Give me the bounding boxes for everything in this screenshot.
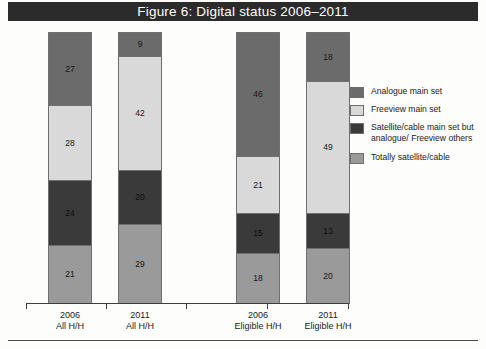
legend-item-satellite-cable-main-set[interactable]: Satellite/cable main set but analogue/ F…: [350, 122, 482, 143]
segment-value-label: 9: [138, 40, 143, 49]
segment-analogue-main-set[interactable]: 46: [237, 33, 279, 157]
segment-value-label: 20: [135, 193, 144, 202]
segment-value-label: 42: [135, 109, 144, 118]
segment-totally-satellite-cable[interactable]: 20: [307, 249, 349, 303]
bar-group-2011-all: 9422029: [118, 32, 162, 304]
stacked-bar[interactable]: 9422029: [118, 32, 162, 304]
legend-swatch-icon: [350, 123, 364, 134]
segment-analogue-main-set[interactable]: 18: [307, 33, 349, 82]
segment-analogue-main-set[interactable]: 9: [119, 33, 161, 57]
segment-value-label: 46: [253, 90, 262, 99]
axis-label-2011-eligible: 2011 Eligible H/H: [280, 310, 376, 332]
axis-label-group: All H/H: [92, 321, 188, 332]
axis-label-2011-all: 2011 All H/H: [92, 310, 188, 332]
bar-group-2006-eligible: 46211518: [236, 32, 280, 304]
segment-totally-satellite-cable[interactable]: 29: [119, 225, 161, 303]
segment-analogue-main-set[interactable]: 27: [49, 33, 91, 106]
segment-satellite-cable-main-set[interactable]: 15: [237, 214, 279, 255]
legend-item-freeview-main-set[interactable]: Freeview main set: [350, 104, 482, 116]
segment-value-label: 21: [65, 270, 74, 279]
x-axis-line: [26, 303, 348, 304]
segment-totally-satellite-cable[interactable]: 21: [49, 246, 91, 303]
axis-tick: [106, 303, 107, 309]
stacked-bar[interactable]: 18491320: [306, 32, 350, 304]
figure-6-digital-status: Figure 6: Digital status 2006–2011 27282…: [0, 0, 486, 349]
figure-title-bar: Figure 6: Digital status 2006–2011: [8, 2, 478, 21]
segment-value-label: 28: [65, 139, 74, 148]
segment-value-label: 49: [323, 143, 332, 152]
segment-value-label: 24: [65, 209, 74, 218]
segment-freeview-main-set[interactable]: 21: [237, 157, 279, 214]
legend-item-label: Satellite/cable main set but analogue/ F…: [371, 122, 482, 143]
segment-freeview-main-set[interactable]: 42: [119, 57, 161, 170]
page-title: Figure 6: Digital status 2006–2011: [137, 4, 348, 19]
legend-item-label: Analogue main set: [371, 86, 442, 97]
stacked-bar[interactable]: 27282421: [48, 32, 92, 304]
bottom-divider: [8, 340, 478, 341]
segment-value-label: 27: [65, 65, 74, 74]
axis-label-year: 2011: [92, 310, 188, 321]
segment-value-label: 21: [253, 181, 262, 190]
bar-group-2011-eligible: 18491320: [306, 32, 350, 304]
segment-value-label: 15: [253, 229, 262, 238]
axis-label-year: 2011: [280, 310, 376, 321]
segment-value-label: 18: [323, 53, 332, 62]
legend-swatch-icon: [350, 87, 364, 98]
axis-tick: [348, 303, 349, 309]
segment-satellite-cable-main-set[interactable]: 20: [119, 171, 161, 225]
segment-value-label: 29: [135, 260, 144, 269]
segment-freeview-main-set[interactable]: 28: [49, 106, 91, 182]
bar-group-2006-all: 27282421: [48, 32, 92, 304]
segment-satellite-cable-main-set[interactable]: 13: [307, 214, 349, 249]
segment-value-label: 18: [253, 274, 262, 283]
legend: Analogue main set Freeview main set Sate…: [350, 86, 482, 170]
segment-totally-satellite-cable[interactable]: 18: [237, 254, 279, 303]
axis-tick: [186, 303, 187, 309]
legend-swatch-icon: [350, 153, 364, 164]
legend-item-totally-satellite-cable[interactable]: Totally satellite/cable: [350, 152, 482, 164]
legend-item-label: Freeview main set: [371, 104, 441, 115]
stacked-bar[interactable]: 46211518: [236, 32, 280, 304]
legend-item-analogue-main-set[interactable]: Analogue main set: [350, 86, 482, 98]
segment-value-label: 20: [323, 272, 332, 281]
legend-swatch-icon: [350, 105, 364, 116]
segment-satellite-cable-main-set[interactable]: 24: [49, 181, 91, 246]
axis-label-group: Eligible H/H: [280, 321, 376, 332]
legend-item-label: Totally satellite/cable: [371, 152, 450, 163]
segment-freeview-main-set[interactable]: 49: [307, 82, 349, 214]
axis-tick: [267, 303, 268, 309]
segment-value-label: 13: [323, 227, 332, 236]
axis-tick: [26, 303, 27, 309]
